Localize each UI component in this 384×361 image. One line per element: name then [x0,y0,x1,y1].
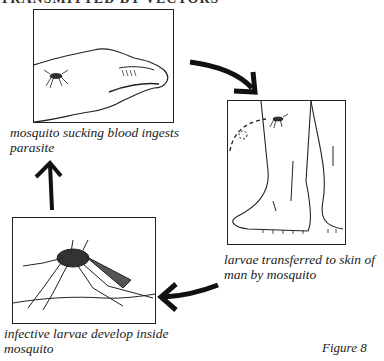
life-cycle-diagram: TRANSMITTED BY VECTORS mosquito sucking … [0,0,384,361]
arrow-up-icon [36,163,61,210]
figure-label: Figure 8 [322,340,367,356]
arrow-right-down-icon [190,62,255,92]
cycle-arrows [0,0,384,361]
arrow-left-icon [161,284,218,310]
